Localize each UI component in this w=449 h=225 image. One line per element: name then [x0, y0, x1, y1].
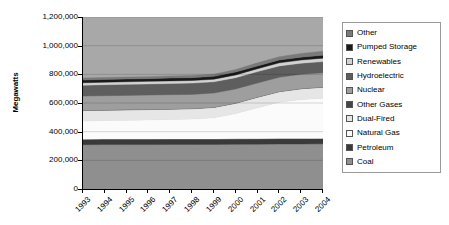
legend-item-label: Dual-Fired: [357, 115, 394, 123]
legend-item[interactable]: Nuclear: [346, 83, 438, 97]
legend-swatch-icon: [346, 58, 353, 65]
legend-item-label: Other Gases: [357, 101, 402, 109]
legend-item[interactable]: Natural Gas: [346, 126, 438, 140]
legend-item[interactable]: Pumped Storage: [346, 40, 438, 54]
legend-swatch-icon: [346, 87, 353, 94]
legend-item[interactable]: Renewables: [346, 55, 438, 69]
legend-item-label: Hydroelectric: [357, 72, 404, 80]
legend-item[interactable]: Other: [346, 26, 438, 40]
legend-item[interactable]: Coal: [346, 155, 438, 169]
legend-item[interactable]: Other Gases: [346, 97, 438, 111]
legend-item-label: Natural Gas: [357, 129, 400, 137]
legend-item-label: Nuclear: [357, 86, 385, 94]
legend-item-label: Other: [357, 29, 377, 37]
legend-swatch-icon: [346, 144, 353, 151]
chart-container: Megawatts 1,200,0001,000,000800,000600,0…: [0, 0, 449, 225]
legend-swatch-icon: [346, 44, 353, 51]
legend-swatch-icon: [346, 101, 353, 108]
legend-item-label: Renewables: [357, 58, 401, 66]
legend-swatch-icon: [346, 73, 353, 80]
legend-item-label: Pumped Storage: [357, 43, 417, 51]
legend-swatch-icon: [346, 115, 353, 122]
legend-item[interactable]: Petroleum: [346, 140, 438, 154]
legend-item-label: Petroleum: [357, 144, 393, 152]
legend-item[interactable]: Hydroelectric: [346, 69, 438, 83]
legend-item-label: Coal: [357, 158, 373, 166]
legend-item[interactable]: Dual-Fired: [346, 112, 438, 126]
legend-swatch-icon: [346, 130, 353, 137]
chart-legend: OtherPumped StorageRenewablesHydroelectr…: [342, 22, 441, 173]
legend-swatch-icon: [346, 158, 353, 165]
legend-swatch-icon: [346, 30, 353, 37]
